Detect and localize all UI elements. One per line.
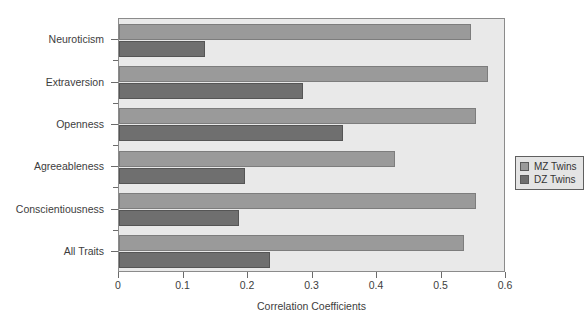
x-axis-tick-label: 0.3 (304, 279, 319, 291)
x-axis-tick-label: 0.4 (369, 279, 384, 291)
y-axis-category-labels: NeuroticismExtraversionOpennessAgreeable… (0, 18, 112, 272)
bar-mz-twins-neuroticism (119, 24, 471, 40)
legend-label-dz: DZ Twins (534, 174, 576, 185)
y-axis-label-openness: Openness (56, 118, 104, 130)
y-axis-label-neuroticism: Neuroticism (49, 33, 104, 45)
x-axis-title: Correlation Coefficients (118, 300, 505, 312)
bar-mz-twins-agreeableness (119, 151, 395, 167)
y-axis-label-conscientiousness: Conscientiousness (16, 203, 104, 215)
x-axis-tick-label: 0.2 (240, 279, 255, 291)
bar-dz-twins-all-traits (119, 252, 270, 268)
y-axis-tick-conscientiousness (111, 209, 118, 210)
y-axis-tick-extraversion (111, 82, 118, 83)
legend-swatch-mz-icon (520, 162, 529, 171)
chart-legend: MZ Twins DZ Twins (515, 156, 584, 190)
bar-dz-twins-openness (119, 125, 343, 141)
y-axis-label-all-traits: All Traits (64, 245, 104, 257)
bar-mz-twins-openness (119, 108, 476, 124)
bars-layer (119, 19, 504, 271)
legend-label-mz: MZ Twins (534, 161, 577, 172)
x-axis-tick-mark (118, 272, 119, 278)
legend-item-mz-twins: MZ Twins (520, 160, 577, 173)
bar-mz-twins-conscientiousness (119, 193, 476, 209)
y-axis-tick-neuroticism (111, 39, 118, 40)
x-axis-tick-mark (183, 272, 184, 278)
bar-dz-twins-neuroticism (119, 41, 205, 57)
bar-dz-twins-conscientiousness (119, 210, 239, 226)
x-axis-tick-mark (247, 272, 248, 278)
legend-swatch-dz-icon (520, 175, 529, 184)
x-axis-tick-mark (505, 272, 506, 278)
x-axis-ticks: 00.10.20.30.40.50.6 (118, 272, 505, 302)
plot-area: MZ Twins DZ Twins (118, 18, 505, 272)
x-axis-tick-mark (312, 272, 313, 278)
x-axis-tick-label: 0.6 (498, 279, 513, 291)
y-axis-tick-all-traits (111, 251, 118, 252)
x-axis-tick-label: 0.5 (433, 279, 448, 291)
bar-mz-twins-extraversion (119, 66, 488, 82)
bar-dz-twins-extraversion (119, 83, 303, 99)
x-axis-tick-mark (441, 272, 442, 278)
bar-dz-twins-agreeableness (119, 168, 245, 184)
y-axis-tick-agreeableness (111, 166, 118, 167)
bar-mz-twins-all-traits (119, 235, 464, 251)
legend-item-dz-twins: DZ Twins (520, 173, 577, 186)
y-axis-label-extraversion: Extraversion (46, 76, 104, 88)
y-axis-label-agreeableness: Agreeableness (34, 160, 104, 172)
y-axis-tick-openness (111, 124, 118, 125)
x-axis-tick-label: 0 (115, 279, 121, 291)
x-axis-tick-mark (376, 272, 377, 278)
x-axis-tick-label: 0.1 (175, 279, 190, 291)
